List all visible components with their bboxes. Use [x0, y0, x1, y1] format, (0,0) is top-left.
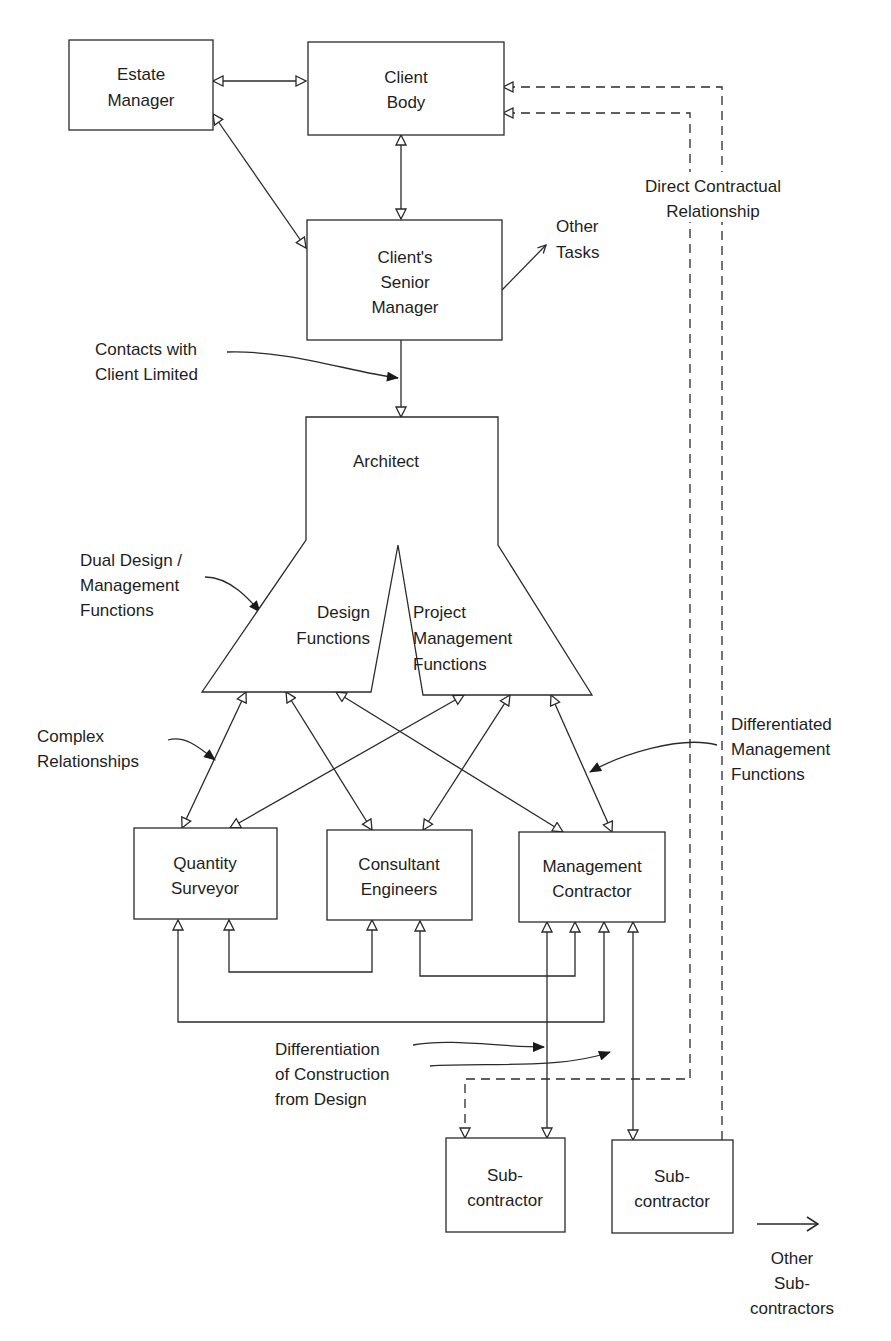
svg-text:Functions: Functions	[413, 655, 487, 674]
svg-text:Other: Other	[771, 1249, 814, 1268]
svg-text:Dual Design /: Dual Design /	[80, 551, 182, 570]
label-contacts-limited: Contacts with Client Limited	[95, 340, 198, 384]
label-other-subcontractors: Other Sub- contractors	[750, 1249, 834, 1318]
svg-text:Client: Client	[384, 68, 428, 87]
label-direct-contractual: Direct Contractual Relationship	[625, 172, 800, 222]
edge-senior-othertasks	[502, 245, 546, 290]
edge-qs-ce	[229, 920, 372, 972]
edge-pm-mc	[551, 695, 612, 832]
pointer-dual-design	[205, 577, 260, 612]
pointer-differentiated	[590, 742, 717, 772]
svg-text:Senior: Senior	[380, 273, 429, 292]
svg-text:Functions: Functions	[296, 629, 370, 648]
svg-text:Client Limited: Client Limited	[95, 365, 198, 384]
svg-text:Manager: Manager	[107, 91, 174, 110]
label-complex-relationships: Complex Relationships	[37, 727, 139, 771]
node-senior-manager: Client's Senior Manager	[307, 220, 502, 340]
svg-text:Quantity: Quantity	[173, 854, 237, 873]
node-quantity-surveyor: Quantity Surveyor	[134, 828, 277, 919]
pointer-differentiation-2	[430, 1052, 610, 1066]
label-differentiation-construction: Differentiation of Construction from Des…	[275, 1040, 389, 1109]
svg-text:contractor: contractor	[467, 1191, 543, 1210]
edge-design-ce	[286, 692, 372, 830]
svg-text:from Design: from Design	[275, 1090, 367, 1109]
label-dual-design: Dual Design / Management Functions	[80, 551, 182, 620]
svg-text:Design: Design	[317, 603, 370, 622]
node-estate-manager: Estate Manager	[69, 40, 213, 130]
svg-text:Management: Management	[413, 629, 513, 648]
svg-text:Management: Management	[731, 740, 831, 759]
node-consultant-engineers: Consultant Engineers	[327, 830, 472, 920]
svg-text:Client's: Client's	[377, 248, 432, 267]
svg-text:of Construction: of Construction	[275, 1065, 389, 1084]
edge-estate-senior	[213, 114, 306, 248]
svg-text:Sub-: Sub-	[654, 1167, 690, 1186]
edge-design-mc	[336, 692, 563, 832]
edge-ce-mc	[420, 921, 575, 976]
svg-text:contractor: contractor	[634, 1192, 710, 1211]
svg-text:Relationships: Relationships	[37, 752, 139, 771]
node-client-body: Client Body	[308, 42, 504, 135]
svg-text:Differentiated: Differentiated	[731, 715, 832, 734]
svg-text:Complex: Complex	[37, 727, 105, 746]
node-subcontractor-2: Sub- contractor	[612, 1140, 733, 1233]
edge-pm-qs	[230, 695, 464, 828]
svg-text:Architect: Architect	[353, 452, 419, 471]
svg-text:Body: Body	[387, 93, 426, 112]
svg-text:Differentiation: Differentiation	[275, 1040, 380, 1059]
svg-text:Functions: Functions	[731, 765, 805, 784]
label-other-tasks: Other Tasks	[556, 217, 599, 262]
node-subcontractor-1: Sub- contractor	[446, 1138, 565, 1232]
pointer-differentiation-1	[413, 1042, 544, 1047]
svg-text:Other: Other	[556, 217, 599, 236]
svg-text:Relationship: Relationship	[666, 202, 760, 221]
svg-text:Tasks: Tasks	[556, 243, 599, 262]
svg-text:Engineers: Engineers	[361, 880, 438, 899]
svg-text:Management: Management	[80, 576, 180, 595]
node-architect: Architect	[202, 417, 592, 695]
organization-diagram: Estate Manager Client Body Client's Seni…	[0, 0, 891, 1341]
svg-text:Consultant: Consultant	[358, 855, 440, 874]
svg-text:Direct Contractual: Direct Contractual	[645, 177, 781, 196]
svg-text:Sub-: Sub-	[774, 1274, 810, 1293]
svg-text:Surveyor: Surveyor	[171, 879, 239, 898]
svg-text:Estate: Estate	[117, 65, 165, 84]
edge-pm-ce	[423, 695, 510, 830]
pointer-contacts-limited	[227, 352, 398, 378]
pointer-complex	[168, 739, 215, 760]
svg-text:Contractor: Contractor	[552, 882, 632, 901]
svg-text:Manager: Manager	[371, 298, 438, 317]
svg-text:Project: Project	[413, 603, 466, 622]
svg-text:Sub-: Sub-	[487, 1166, 523, 1185]
label-differentiated-mgmt: Differentiated Management Functions	[728, 715, 858, 808]
svg-text:Management: Management	[542, 857, 642, 876]
svg-text:contractors: contractors	[750, 1299, 834, 1318]
edge-qs-mc	[178, 920, 604, 1022]
svg-text:Functions: Functions	[80, 601, 154, 620]
node-management-contractor: Management Contractor	[519, 832, 665, 922]
svg-text:Contacts with: Contacts with	[95, 340, 197, 359]
